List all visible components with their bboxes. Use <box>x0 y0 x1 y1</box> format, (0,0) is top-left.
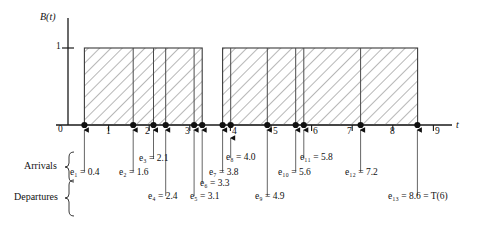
x-tick-label-1: 1 <box>106 126 111 136</box>
event-dot <box>414 122 420 128</box>
event-label-e10: e₁₀ = 5.6 <box>278 167 311 177</box>
x-axis-label: t <box>456 119 459 130</box>
event-label-e2: e₂ = 1.6 <box>119 167 149 177</box>
x-tick-label-5: 5 <box>273 126 278 136</box>
x-tick-label-2: 2 <box>145 126 150 136</box>
event-leaders <box>84 130 417 196</box>
event-dot <box>163 122 169 128</box>
arrivals-label: Arrivals <box>24 160 57 171</box>
event-label-e9: e₉ = 4.9 <box>255 191 285 201</box>
x-tick-label-3: 3 <box>185 126 190 136</box>
event-dot <box>358 122 364 128</box>
y-tick-label-1: 1 <box>56 41 61 51</box>
event-label-e7: e₇ = 3.8 <box>209 167 239 177</box>
event-dot <box>130 122 136 128</box>
event-label-e11: e₁₁ = 5.8 <box>300 152 333 162</box>
event-label-e6: e₆ = 3.3 <box>200 178 230 188</box>
event-label-e13: e₁₃ = 8.6 = T(6) <box>388 191 448 201</box>
event-label-e5: e₅ = 3.1 <box>190 191 220 201</box>
event-label-e3: e₃ = 2.1 <box>139 153 169 163</box>
event-dot <box>191 122 197 128</box>
event-label-e4: e₄ = 2.4 <box>148 191 178 201</box>
event-dot <box>81 122 87 128</box>
origin-label: 0 <box>58 124 63 134</box>
x-tick-label-4: 4 <box>232 126 237 136</box>
event-dot <box>150 122 156 128</box>
x-tick-label-8: 8 <box>390 126 395 136</box>
event-dot <box>301 122 307 128</box>
event-label-e8: e₈ = 4.0 <box>226 152 256 162</box>
y-axis-label: B(t) <box>40 11 56 22</box>
departures-label: Departures <box>14 191 58 202</box>
event-dot <box>199 122 205 128</box>
event-label-e1: e₁ = 0.4 <box>70 167 100 177</box>
x-tick-label-6: 6 <box>313 126 318 136</box>
busy-block-1 <box>84 48 202 125</box>
x-tick-label-7: 7 <box>347 126 352 136</box>
departures-brace <box>65 180 74 216</box>
busy-block-2 <box>223 48 418 125</box>
event-dot <box>293 122 299 128</box>
x-axis-ticks <box>109 125 434 131</box>
event-label-e12: e₁₂ = 7.2 <box>345 167 378 177</box>
plot-area <box>56 18 452 216</box>
event-dot <box>220 122 226 128</box>
event-dot <box>264 122 270 128</box>
x-tick-label-9: 9 <box>435 126 440 136</box>
